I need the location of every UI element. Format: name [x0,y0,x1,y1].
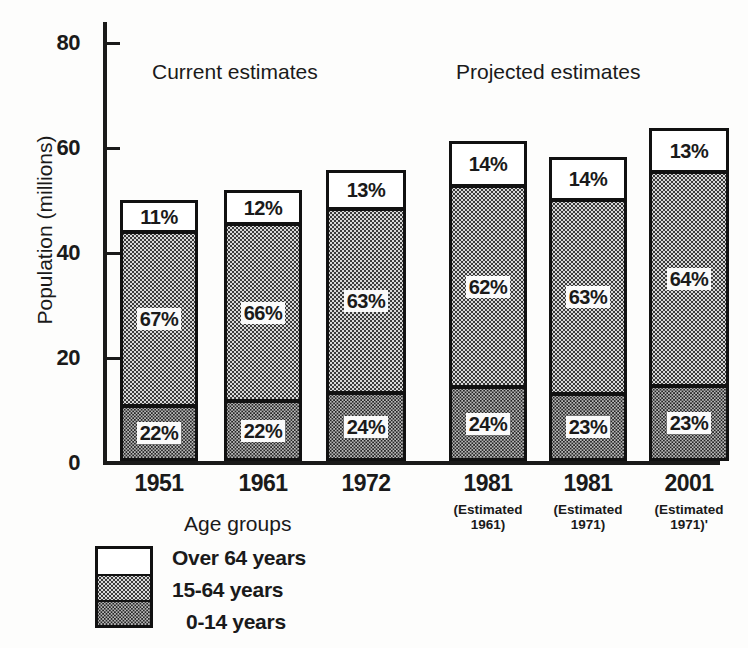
y-tick-label-20: 20 [34,345,80,371]
bar-1981-est-1971-segment-0-14: 23% [549,393,627,461]
legend-label-over-64: Over 64 years [172,546,306,570]
bar-2001-est-1971-segment-0-14: 23% [649,385,729,461]
x-label-1981-est-1971: 1981 (Estimated 1971) [538,470,638,532]
y-tick-mark-60 [107,147,120,150]
x-label-2001-est-1971-year: 2001 [639,470,739,497]
bar-1961-segment-0-14: 22% [224,400,302,461]
y-tick-label-0: 0 [44,450,80,476]
bar-1961-label-15-64: 66% [241,302,286,324]
legend-swatch-0-14 [98,602,150,625]
x-label-2001-est-1971: 2001 (Estimated 1971)' [639,470,739,532]
bar-1951-segment-over-64: 11% [120,200,198,233]
bar-2001-est-1971-segment-15-64: 64% [649,171,729,387]
bar-1972-label-0-14: 24% [344,416,389,438]
bar-1981-est-1961-label-15-64: 62% [466,276,511,298]
bar-1951-label-over-64: 11% [137,206,180,228]
legend-swatch-15-64 [98,576,150,602]
y-tick-mark-20 [107,357,120,360]
x-label-1961-year: 1961 [213,470,313,497]
bar-1961-label-over-64: 12% [241,197,286,219]
bar-1981-est-1961-label-over-64: 14% [466,153,511,175]
x-label-1951: 1951 [109,470,209,497]
x-label-1981-est-1961-note-line1: (Estimated [438,502,538,517]
bar-1961[interactable]: 12% 66% 22% [224,190,302,461]
x-label-1972-year: 1972 [316,470,416,497]
bar-1981-est-1971-label-0-14: 23% [566,416,611,438]
bar-1981-est-1961[interactable]: 14% 62% 24% [449,141,527,461]
bar-1961-label-0-14: 22% [241,420,286,442]
bar-1972-segment-over-64: 13% [326,170,406,210]
bar-1951-label-0-14: 22% [137,422,182,444]
bar-1951[interactable]: 11% 67% 22% [120,200,198,461]
bar-1981-est-1961-label-0-14: 24% [466,413,511,435]
bar-1981-est-1971[interactable]: 14% 63% 23% [549,157,627,461]
bar-1981-est-1961-segment-over-64: 14% [449,141,527,187]
bar-1981-est-1961-segment-15-64: 62% [449,185,527,388]
bar-2001-est-1971-label-0-14: 23% [667,412,712,434]
x-label-1981-est-1971-year: 1981 [538,470,638,497]
y-tick-label-80: 80 [34,30,80,56]
x-label-1981-est-1971-note-line2: 1971) [538,517,638,532]
group-title-projected: Projected estimates [456,60,640,84]
x-label-1981-est-1961-year: 1981 [438,470,538,497]
x-axis-line [103,461,720,465]
x-label-1951-year: 1951 [109,470,209,497]
x-label-1972: 1972 [316,470,416,497]
bar-1961-segment-over-64: 12% [224,190,302,225]
x-label-2001-est-1971-note-line2: 1971)' [639,517,739,532]
y-tick-mark-80 [107,42,120,45]
x-label-1981-est-1961: 1981 (Estimated 1961) [438,470,538,532]
legend-label-0-14: 0-14 years [186,610,286,634]
population-stacked-bar-chart: Population (millions) 80 60 40 20 0 Curr… [0,0,748,648]
x-label-1981-est-1961-note-line2: 1961) [438,517,538,532]
bar-2001-est-1971-label-over-64: 13% [667,140,712,162]
bar-1981-est-1961-segment-0-14: 24% [449,386,527,461]
bar-1972-label-over-64: 13% [344,179,389,201]
bar-1972[interactable]: 13% 63% 24% [326,170,406,461]
legend-title: Age groups [184,512,291,536]
bar-1951-label-15-64: 67% [137,308,182,330]
bar-1951-segment-15-64: 67% [120,231,198,407]
bar-2001-est-1971-label-15-64: 64% [667,268,712,290]
group-title-current: Current estimates [152,60,318,84]
x-label-1981-est-1971-note-line1: (Estimated [538,502,638,517]
bar-1981-est-1971-label-15-64: 63% [566,286,611,308]
bar-1972-segment-0-14: 24% [326,392,406,461]
x-label-2001-est-1971-note-line1: (Estimated [639,502,739,517]
y-tick-label-40: 40 [34,240,80,266]
bar-2001-est-1971-segment-over-64: 13% [649,128,729,173]
bar-1951-segment-0-14: 22% [120,405,198,461]
legend-swatch-over-64 [98,549,150,576]
y-tick-mark-40 [107,252,120,255]
legend-label-15-64: 15-64 years [172,578,283,602]
bar-1961-segment-15-64: 66% [224,223,302,402]
bar-1972-segment-15-64: 63% [326,208,406,394]
bar-1981-est-1971-label-over-64: 14% [566,168,611,190]
legend-swatch-box [95,546,153,628]
y-tick-label-60: 60 [34,135,80,161]
y-axis-line [103,22,107,465]
x-label-1961: 1961 [213,470,313,497]
bar-1981-est-1971-segment-over-64: 14% [549,157,627,201]
bar-1972-label-15-64: 63% [344,290,389,312]
bar-1981-est-1971-segment-15-64: 63% [549,199,627,395]
bar-2001-est-1971[interactable]: 13% 64% 23% [649,128,729,461]
